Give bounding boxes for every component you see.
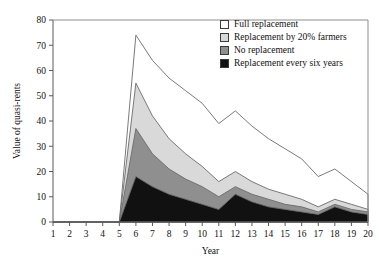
y-tick-label: 70 <box>37 41 47 51</box>
y-tick-label: 50 <box>37 91 47 101</box>
x-tick-label: 9 <box>183 229 188 239</box>
y-tick-label: 0 <box>41 217 46 227</box>
legend-swatch-icon <box>220 46 229 55</box>
legend-item-label: Replacement by 20% farmers <box>234 32 347 43</box>
y-tick-label: 60 <box>37 66 47 76</box>
y-tick-label: 40 <box>37 116 47 126</box>
legend-item-label: Replacement every six years <box>234 58 343 69</box>
x-tick-label: 5 <box>117 229 122 239</box>
x-tick-label: 15 <box>280 229 290 239</box>
legend-item-label: Full replacement <box>234 19 298 30</box>
x-tick-label: 18 <box>330 229 340 239</box>
x-tick-label: 13 <box>247 229 257 239</box>
x-tick-label: 1 <box>51 229 56 239</box>
x-tick-label: 2 <box>67 229 72 239</box>
x-tick-label: 17 <box>314 229 324 239</box>
chart-figure: 0102030405060708012345678910111213141516… <box>0 0 379 268</box>
x-tick-label: 11 <box>214 229 223 239</box>
x-tick-label: 12 <box>231 229 241 239</box>
y-axis-title: Value of quasi-rents <box>12 83 22 159</box>
x-tick-label: 7 <box>150 229 155 239</box>
x-tick-label: 3 <box>84 229 89 239</box>
legend-item: Full replacement <box>220 18 365 31</box>
x-axis-title: Year <box>202 246 220 256</box>
x-tick-label: 20 <box>363 229 373 239</box>
x-tick-label: 10 <box>197 229 207 239</box>
legend-item: No replacement <box>220 44 365 57</box>
x-tick-label: 6 <box>134 229 139 239</box>
legend-swatch-icon <box>220 33 229 42</box>
y-tick-label: 80 <box>37 15 47 25</box>
x-tick-label: 16 <box>297 229 307 239</box>
y-tick-label: 20 <box>37 167 47 177</box>
x-tick-label: 14 <box>264 229 274 239</box>
x-tick-label: 19 <box>347 229 357 239</box>
chart-legend: Full replacementReplacement by 20% farme… <box>216 14 368 74</box>
y-tick-label: 10 <box>37 192 47 202</box>
legend-swatch-icon <box>220 59 229 68</box>
x-tick-label: 8 <box>167 229 172 239</box>
legend-item-label: No replacement <box>234 45 294 56</box>
legend-swatch-icon <box>220 20 229 29</box>
x-tick-label: 4 <box>100 229 105 239</box>
legend-item: Replacement by 20% farmers <box>220 31 365 44</box>
y-tick-label: 30 <box>37 142 47 152</box>
legend-item: Replacement every six years <box>220 57 365 70</box>
